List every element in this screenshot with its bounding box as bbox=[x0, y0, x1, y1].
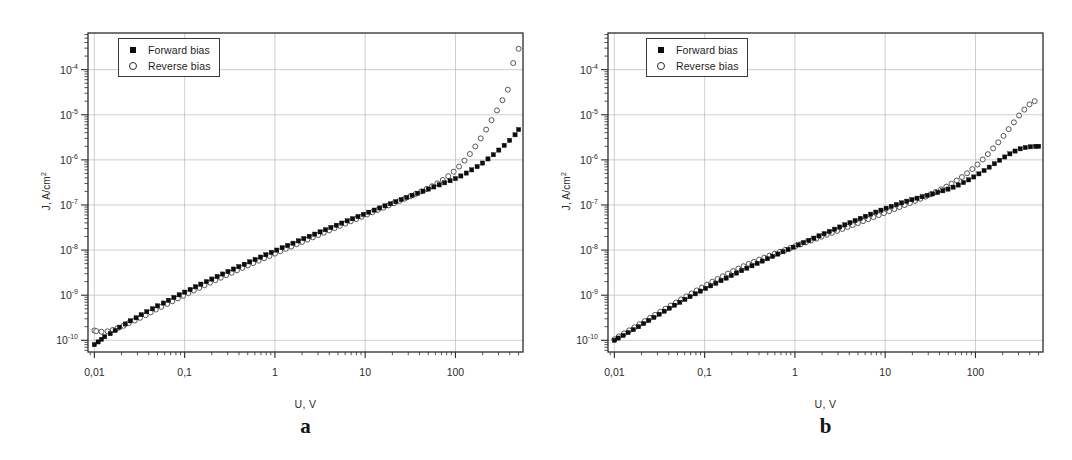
x-tick-label: 100 bbox=[967, 366, 985, 378]
x-tick-label: 1 bbox=[272, 366, 278, 378]
y-tick-label: 10-6 bbox=[564, 153, 598, 166]
legend-row-forward: Forward bias bbox=[126, 43, 210, 56]
filled-square-marker-icon bbox=[654, 47, 667, 53]
legend-row-reverse: Reverse bias bbox=[654, 59, 738, 72]
y-tick-label: 10-8 bbox=[44, 243, 78, 256]
filled-square-marker-icon bbox=[126, 47, 139, 53]
plot-area-a bbox=[0, 0, 536, 460]
open-circle-marker-icon bbox=[126, 62, 139, 70]
legend-label-reverse: Reverse bias bbox=[676, 60, 738, 72]
y-tick-label: 10-4 bbox=[44, 63, 78, 76]
y-tick-label: 10-6 bbox=[44, 153, 78, 166]
chart-panel-a: Forward bias Reverse bias J, A/cm2 U, V … bbox=[0, 0, 536, 460]
x-tick-label: 0,1 bbox=[697, 366, 712, 378]
x-axis-label-a: U, V bbox=[278, 398, 334, 410]
panel-letter-b: b bbox=[806, 414, 846, 439]
y-tick-label: 10-5 bbox=[564, 108, 598, 121]
y-tick-label: 10-10 bbox=[564, 333, 598, 346]
y-tick-label: 10-9 bbox=[44, 288, 78, 301]
legend-row-forward: Forward bias bbox=[654, 43, 738, 56]
y-tick-label: 10-7 bbox=[44, 198, 78, 211]
x-axis-label-b: U, V bbox=[798, 398, 854, 410]
x-tick-label: 0,01 bbox=[604, 366, 624, 378]
legend-label-reverse: Reverse bias bbox=[148, 60, 210, 72]
y-tick-label: 10-4 bbox=[564, 63, 598, 76]
legend-a: Forward bias Reverse bias bbox=[118, 38, 220, 77]
legend-b: Forward bias Reverse bias bbox=[646, 38, 748, 77]
plot-area-b bbox=[536, 0, 1072, 460]
y-tick-label: 10-9 bbox=[564, 288, 598, 301]
legend-label-forward: Forward bias bbox=[148, 44, 210, 56]
figure-container: Forward bias Reverse bias J, A/cm2 U, V … bbox=[0, 0, 1072, 460]
legend-label-forward: Forward bias bbox=[676, 44, 738, 56]
panel-letter-a: a bbox=[286, 414, 326, 439]
chart-panel-b: Forward bias Reverse bias J, A/cm2 U, V … bbox=[536, 0, 1072, 460]
x-tick-label: 100 bbox=[447, 366, 465, 378]
y-tick-label: 10-8 bbox=[564, 243, 598, 256]
x-tick-label: 0,01 bbox=[84, 366, 104, 378]
x-tick-label: 10 bbox=[359, 366, 371, 378]
y-tick-label: 10-10 bbox=[44, 333, 78, 346]
legend-row-reverse: Reverse bias bbox=[126, 59, 210, 72]
open-circle-marker-icon bbox=[654, 62, 667, 70]
x-tick-label: 10 bbox=[879, 366, 891, 378]
y-tick-label: 10-5 bbox=[44, 108, 78, 121]
x-tick-label: 0,1 bbox=[177, 366, 192, 378]
y-tick-label: 10-7 bbox=[564, 198, 598, 211]
x-tick-label: 1 bbox=[792, 366, 798, 378]
